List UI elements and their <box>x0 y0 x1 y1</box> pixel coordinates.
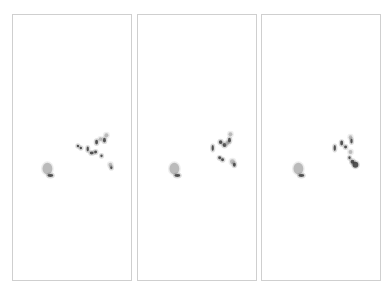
particle <box>352 162 358 168</box>
particle <box>94 150 97 153</box>
particle <box>350 139 352 144</box>
panel-image <box>262 15 380 280</box>
particle <box>348 156 350 159</box>
image-panel-3 <box>261 14 381 281</box>
particle <box>298 174 304 177</box>
particle <box>228 138 231 143</box>
particle <box>100 154 102 157</box>
particle <box>221 158 224 161</box>
particle <box>334 145 336 151</box>
image-panel-2 <box>137 14 257 281</box>
panel-image <box>138 15 256 280</box>
particle <box>104 133 108 137</box>
particle <box>87 147 89 152</box>
particle <box>349 150 353 154</box>
particle <box>233 163 236 167</box>
particle <box>80 147 82 149</box>
particle <box>47 174 53 177</box>
particle <box>110 166 112 169</box>
particle <box>340 141 343 146</box>
particle <box>174 174 180 177</box>
particle <box>228 132 232 136</box>
particle <box>344 146 347 149</box>
image-panel-1 <box>12 14 132 281</box>
particle <box>212 145 214 151</box>
panel-image <box>13 15 131 280</box>
